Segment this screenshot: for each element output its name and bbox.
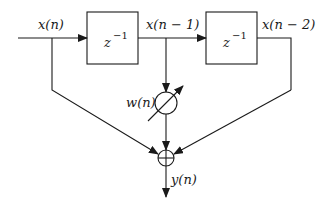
fir-diagram: x(n) z −1 x(n − 1) z −1 x(n − 2) w(n) y(… bbox=[0, 0, 327, 206]
delay-1-label-exp: −1 bbox=[113, 30, 128, 41]
output-label: y(n) bbox=[170, 172, 197, 187]
tap2-arrow bbox=[174, 90, 291, 154]
delay-1-label-base: z bbox=[103, 35, 111, 50]
input-label: x(n) bbox=[38, 17, 64, 32]
weight-label: w(n) bbox=[126, 95, 156, 110]
delay2-output-label: x(n − 2) bbox=[262, 17, 315, 32]
delay2-output-line bbox=[257, 38, 291, 90]
delay-2-label-exp: −1 bbox=[232, 30, 247, 41]
delay-2-label-base: z bbox=[222, 35, 230, 50]
delay1-output-label: x(n − 1) bbox=[146, 17, 199, 32]
